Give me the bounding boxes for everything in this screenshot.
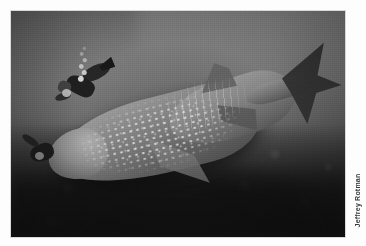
photo-credit-text: Jeffrey Rotman xyxy=(355,173,362,227)
page-canvas: Jeffrey Rotman xyxy=(0,0,366,246)
photograph xyxy=(11,11,345,237)
vignette-overlay xyxy=(11,11,345,237)
photo-credit: Jeffrey Rotman xyxy=(352,164,364,236)
